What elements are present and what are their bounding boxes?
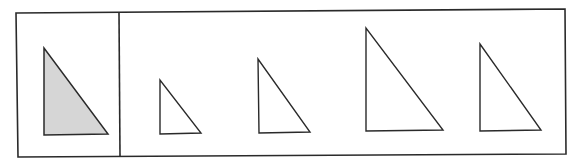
candidate-3 xyxy=(366,28,443,131)
diagram-canvas xyxy=(0,0,580,165)
reference-triangle xyxy=(44,48,108,135)
candidate-1 xyxy=(160,80,201,134)
candidate-4 xyxy=(480,44,541,131)
divider-line xyxy=(119,13,120,156)
candidate-2 xyxy=(258,59,310,133)
candidate-triangles xyxy=(160,28,541,134)
triangle-diagram xyxy=(0,0,580,165)
